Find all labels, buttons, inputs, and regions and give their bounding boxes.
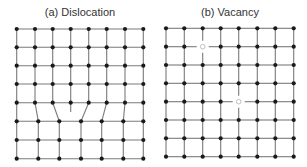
atom [219,100,223,104]
atom [36,119,40,123]
atom [292,100,296,104]
atom [201,63,205,67]
atom [57,157,61,161]
atom [141,101,145,105]
atom [201,118,205,122]
distorted-bond [123,103,125,122]
atom [273,45,277,49]
atom [69,101,73,105]
atom [33,27,37,31]
atom [51,82,55,86]
atom [123,64,127,68]
atom [121,119,125,123]
atom [51,64,55,68]
atom [100,138,104,142]
atom [292,136,296,140]
atom [69,45,73,49]
atom [201,136,205,140]
atom [219,26,223,30]
atom [141,27,145,31]
atom [164,45,168,49]
atom [273,81,277,85]
atom [100,119,104,123]
atom [255,81,259,85]
atom [121,157,125,161]
atom [164,26,168,30]
atom [219,136,223,140]
atom [219,155,223,159]
atom [237,81,241,85]
atom [36,138,40,142]
atom [182,26,186,30]
atom [255,45,259,49]
atom [201,81,205,85]
atom [292,63,296,67]
atom [33,45,37,49]
atom [237,26,241,30]
atom [141,82,145,86]
atom [15,101,19,105]
atom [141,64,145,68]
atom [69,82,73,86]
atom [292,155,296,159]
atom [121,138,125,142]
atom [273,100,277,104]
atom [255,63,259,67]
distorted-bond [102,103,107,122]
atom [15,82,19,86]
atom [164,118,168,122]
atom [237,136,241,140]
atom [273,136,277,140]
lattice-diagram [0,0,307,167]
atom [255,26,259,30]
atom [182,136,186,140]
atom [51,101,55,105]
atom [51,45,55,49]
distorted-bond [53,103,60,122]
atom [100,157,104,161]
atom [87,64,91,68]
atom [201,155,205,159]
atom [105,64,109,68]
atom [123,82,127,86]
atom [164,63,168,67]
atom [201,26,205,30]
atom [123,101,127,105]
atom [273,155,277,159]
atom [164,100,168,104]
atom [201,100,205,104]
atom [123,45,127,49]
atom [36,157,40,161]
atom [79,119,83,123]
atom [123,27,127,31]
atom [182,118,186,122]
atom [57,119,61,123]
distorted-bond [35,103,38,122]
atom [182,81,186,85]
atom [105,101,109,105]
atom [164,155,168,159]
atom [79,138,83,142]
atom [237,45,241,49]
atom [15,138,19,142]
atom [87,101,91,105]
atom [69,64,73,68]
atom [182,100,186,104]
atom [105,27,109,31]
atom [237,63,241,67]
atom [51,27,55,31]
atom [182,63,186,67]
atom [105,45,109,49]
vacancy-site [200,44,205,49]
atom [255,100,259,104]
atom [15,64,19,68]
atom [219,118,223,122]
atom [292,26,296,30]
atom [237,118,241,122]
atom [164,136,168,140]
atom [69,27,73,31]
atom [33,101,37,105]
atom [273,63,277,67]
atom [33,64,37,68]
atom [15,45,19,49]
